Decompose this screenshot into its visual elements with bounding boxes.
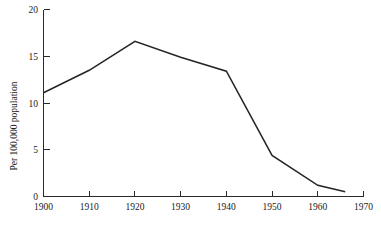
y-axis-ticks (44, 10, 50, 197)
plot-axes (44, 10, 364, 197)
y-tick-label-20: 20 (29, 5, 39, 15)
x-axis-ticks (44, 191, 364, 197)
x-tick-label-1910: 1910 (80, 202, 99, 212)
y-tick-label-15: 15 (29, 52, 39, 62)
data-series-line (44, 41, 346, 192)
x-tick-label-1960: 1960 (308, 202, 327, 212)
x-tick-label-1900: 1900 (34, 202, 53, 212)
x-tick-label-1970: 1970 (354, 202, 373, 212)
x-tick-label-1920: 1920 (125, 202, 144, 212)
y-axis-tick-labels: 0 5 10 15 20 (29, 5, 39, 202)
chart-container: 0 5 10 15 20 1900 1910 1920 1930 1940 19… (0, 0, 381, 228)
y-tick-label-0: 0 (33, 192, 38, 202)
x-axis-tick-labels: 1900 1910 1920 1930 1940 1950 1960 1970 (34, 202, 373, 212)
y-axis-title: Per 100,000 population (9, 81, 19, 170)
y-tick-label-5: 5 (33, 145, 38, 155)
x-tick-label-1930: 1930 (171, 202, 190, 212)
x-tick-label-1940: 1940 (217, 202, 236, 212)
y-tick-label-10: 10 (29, 99, 39, 109)
x-tick-label-1950: 1950 (263, 202, 282, 212)
line-chart: 0 5 10 15 20 1900 1910 1920 1930 1940 19… (0, 0, 381, 228)
